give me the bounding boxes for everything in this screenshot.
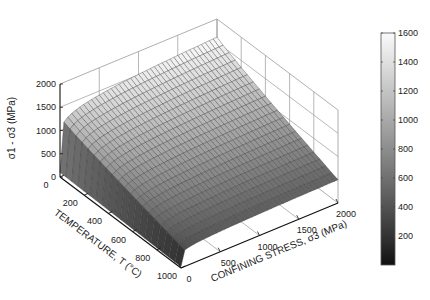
plot-canvas: 0500100015002000020040060080010000500100…: [0, 0, 430, 300]
surface-plot-figure: 0500100015002000020040060080010000500100…: [0, 0, 430, 300]
x-tick-label: 800: [135, 253, 150, 263]
z-tick-label: 1500: [36, 102, 56, 112]
colorbar-tick-label: 1200: [398, 86, 418, 96]
z-axis-label: σ1 - σ3 (MPa): [6, 97, 17, 159]
x-tick-label: 600: [111, 235, 126, 245]
colorbar-tick-label: 200: [398, 231, 413, 241]
x-tick-label: 400: [87, 216, 102, 226]
x-tick-label: 200: [63, 198, 78, 208]
colorbar-tick-label: 1000: [398, 115, 418, 125]
colorbar: 2004006008001000120014001600: [381, 28, 418, 265]
z-tick-label: 0: [51, 172, 56, 182]
y-tick-label: 0: [186, 274, 191, 284]
colorbar-tick-label: 800: [398, 144, 413, 154]
x-tick: [84, 193, 88, 195]
colorbar-tick-label: 600: [398, 173, 413, 183]
x-tick-label: 1000: [157, 271, 177, 281]
z-tick-label: 1000: [36, 126, 56, 136]
colorbar-gradient: [381, 33, 395, 265]
z-tick-label: 500: [41, 149, 56, 159]
colorbar-tick-label: 400: [398, 202, 413, 212]
y-tick-label: 2000: [336, 209, 356, 219]
z-tick-label: 2000: [36, 79, 56, 89]
colorbar-tick-label: 1400: [398, 57, 418, 67]
colorbar-tick-label: 1600: [398, 28, 418, 38]
x-tick-label: 0: [43, 180, 48, 190]
